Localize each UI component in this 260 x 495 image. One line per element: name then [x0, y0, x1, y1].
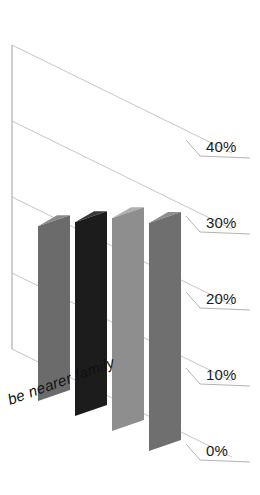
- y-tick-label-30: 30%: [206, 214, 237, 231]
- tick-underline-20: [200, 308, 250, 310]
- tick-underline-10: [200, 384, 250, 386]
- tick-line-40: [186, 140, 200, 156]
- bar-3-front: [112, 207, 144, 431]
- tick-underline-40: [200, 156, 250, 158]
- tick-line-20: [186, 292, 200, 308]
- tick-underline-0: [200, 460, 250, 462]
- tick-underline-30: [200, 232, 250, 234]
- bar-4[interactable]: [149, 212, 200, 451]
- bar-4-front: [149, 212, 181, 451]
- y-tick-label-20: 20%: [206, 290, 237, 307]
- bar-chart-3d: 40% 30% 20% 10% 0% be nearer family: [0, 0, 260, 495]
- bar-2-front: [75, 211, 107, 416]
- tick-line-0: [186, 444, 200, 460]
- y-tick-label-10: 10%: [206, 366, 237, 383]
- y-tick-label-0: 0%: [206, 442, 228, 459]
- chart-container: 40% 30% 20% 10% 0% be nearer family: [0, 0, 260, 495]
- y-tick-label-40: 40%: [206, 138, 237, 155]
- tick-line-30: [186, 216, 200, 232]
- tick-line-10: [186, 368, 200, 384]
